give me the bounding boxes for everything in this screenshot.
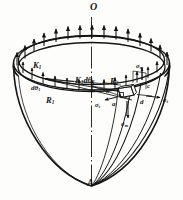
arc-length-label: K1dθ1 xyxy=(75,76,95,85)
sigma-t-right-label: σt xyxy=(163,97,168,104)
shell-inner-edge-left xyxy=(19,76,92,186)
apex-label: A xyxy=(87,178,94,188)
R1-label: R1 xyxy=(46,96,54,105)
rim-point-K1-label: K1 xyxy=(33,61,41,70)
axis-top-label: O xyxy=(90,2,97,12)
element-vertex-c-label: c xyxy=(147,83,150,90)
element-vertex-a-label: a xyxy=(112,101,116,108)
R2-label: R2 xyxy=(110,77,118,86)
dtheta1-label: dθ1 xyxy=(31,85,40,92)
sigma-t-right-arrow xyxy=(146,96,160,98)
sigma-m-bottom-label: σm xyxy=(121,121,128,128)
element-vertex-d-label: d xyxy=(140,99,144,106)
sigma-m-top-label: σm xyxy=(136,63,143,70)
element-vertex-b-label: b xyxy=(106,88,110,95)
shell-stress-figure: O A K1 K1dθ1 dθ1 R1 R2 a b c d σm σm σt … xyxy=(0,0,183,200)
figure-drawing xyxy=(0,0,183,200)
sigma-t-left-label: σt xyxy=(95,102,100,109)
element-guide-top xyxy=(133,71,146,73)
element-abcd-group xyxy=(118,85,137,98)
